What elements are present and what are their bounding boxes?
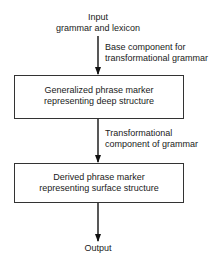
- arrowhead-1-icon: [95, 67, 101, 75]
- arrowhead-2-icon: [95, 155, 101, 163]
- deep-structure-box: Generalized phrase marker representing d…: [14, 75, 184, 119]
- input-title: Input: [48, 12, 148, 23]
- box1-line2: representing deep structure: [15, 96, 183, 107]
- box2-line1: Derived phrase marker: [15, 172, 183, 183]
- input-subtitle: grammar and lexicon: [48, 23, 148, 34]
- box1-line1: Generalized phrase marker: [15, 85, 183, 96]
- edge2-line1: Transformational: [105, 128, 198, 139]
- edge1-line1: Base component for: [105, 42, 208, 53]
- arrowhead-3-icon: [95, 234, 101, 242]
- edge2-line2: component of grammar: [105, 139, 198, 150]
- edge1-line2: transformational grammar: [105, 53, 208, 64]
- edge1-label: Base component for transformational gram…: [105, 42, 208, 64]
- input-label: Input grammar and lexicon: [48, 12, 148, 34]
- surface-structure-box: Derived phrase marker representing surfa…: [14, 163, 184, 203]
- box2-line2: representing surface structure: [15, 183, 183, 194]
- edge2-label: Transformational component of grammar: [105, 128, 198, 150]
- output-label: Output: [68, 243, 128, 254]
